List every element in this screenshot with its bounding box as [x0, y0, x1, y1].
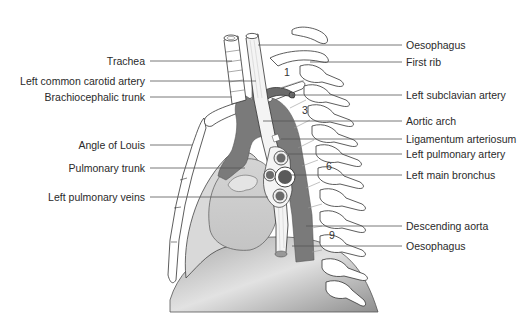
label-left-main-bronchus: Left main bronchus: [406, 169, 495, 181]
label-trachea: Trachea: [107, 55, 145, 67]
label-first-rib: First rib: [406, 56, 441, 68]
label-aortic-arch: Aortic arch: [406, 115, 456, 127]
label-oesophagus-bottom: Oesophagus: [406, 240, 466, 252]
label-left-common-carotid-artery: Left common carotid artery: [20, 75, 145, 87]
vertebra-number-1: 1: [284, 66, 290, 78]
vertebra-number-6: 6: [326, 160, 332, 172]
label-oesophagus-top: Oesophagus: [406, 39, 466, 51]
label-left-pulmonary-artery: Left pulmonary artery: [406, 148, 505, 160]
anatomy-diagram: Trachea Left common carotid artery Brach…: [0, 0, 524, 329]
label-angle-of-louis: Angle of Louis: [78, 139, 145, 151]
vertebra-number-3: 3: [302, 104, 308, 116]
label-pulmonary-trunk: Pulmonary trunk: [69, 162, 145, 174]
label-descending-aorta: Descending aorta: [406, 220, 488, 232]
vertebra-number-9: 9: [329, 229, 335, 241]
label-left-pulmonary-veins: Left pulmonary veins: [48, 191, 145, 203]
label-brachiocephalic-trunk: Brachiocephalic trunk: [45, 91, 145, 103]
label-ligamentum-arteriosum: Ligamentum arteriosum: [406, 133, 516, 145]
trachea: [224, 35, 246, 104]
label-left-subclavian-artery: Left subclavian artery: [406, 89, 506, 101]
